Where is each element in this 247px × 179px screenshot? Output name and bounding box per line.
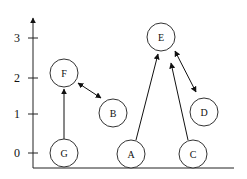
node-label: G (60, 148, 67, 159)
tick-label-3: 3 (14, 31, 20, 45)
node-e: E (147, 23, 175, 51)
node-g: G (50, 139, 78, 167)
node-a: A (117, 140, 145, 168)
tick-label-1: 1 (14, 107, 20, 121)
node-label: C (190, 149, 197, 160)
edge-a-e (136, 54, 158, 140)
edge-c-e (171, 63, 188, 140)
y-axis-ticks: 3 2 1 0 (14, 31, 38, 160)
tick-label-0: 0 (14, 146, 20, 160)
node-c: C (179, 140, 207, 168)
node-label: E (158, 32, 164, 43)
edge-f-b (78, 83, 101, 98)
node-label: D (200, 107, 207, 118)
edge-e-d (175, 51, 196, 92)
edges (64, 51, 196, 140)
tick-label-2: 2 (14, 71, 20, 85)
node-b: B (99, 99, 127, 127)
node-label: A (127, 149, 135, 160)
node-label: B (110, 108, 117, 119)
diagram-canvas: 3 2 1 0 F B G A E D C (0, 0, 247, 179)
node-label: F (61, 68, 67, 79)
node-d: D (190, 98, 218, 126)
node-f: F (50, 59, 78, 87)
